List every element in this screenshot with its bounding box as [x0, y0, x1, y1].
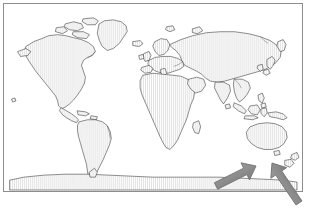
land-hispaniola	[90, 116, 97, 120]
land-philippines-2	[261, 103, 266, 108]
world-map-canvas	[4, 4, 302, 191]
land-hawaii	[12, 98, 16, 102]
land-tasmania	[274, 150, 280, 155]
world-map-figure: World map with arrows indicating New Zea…	[0, 0, 310, 209]
land-sri-lanka	[226, 104, 231, 109]
map-frame	[3, 3, 303, 192]
land-ireland	[139, 54, 144, 59]
